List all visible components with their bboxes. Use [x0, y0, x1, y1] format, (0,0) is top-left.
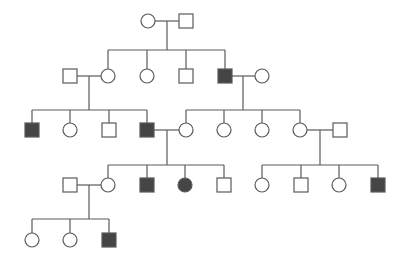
male-square-icon	[217, 178, 231, 192]
affected-male-square-icon	[25, 123, 39, 137]
affected-male-square-icon	[102, 233, 116, 247]
male-square-icon	[102, 123, 116, 137]
female-circle-icon	[255, 69, 269, 83]
affected-female-circle-icon	[178, 178, 192, 192]
female-circle-icon	[255, 178, 269, 192]
male-square-icon	[179, 69, 193, 83]
affected-male-square-icon	[218, 69, 232, 83]
female-circle-icon	[217, 123, 231, 137]
female-circle-icon	[293, 123, 307, 137]
female-circle-icon	[255, 123, 269, 137]
affected-male-square-icon	[140, 178, 154, 192]
female-circle-icon	[25, 233, 39, 247]
affected-male-square-icon	[371, 178, 385, 192]
male-square-icon	[333, 123, 347, 137]
pedigree-diagram	[0, 0, 407, 259]
male-square-icon	[294, 178, 308, 192]
female-circle-icon	[141, 14, 155, 28]
female-circle-icon	[332, 178, 346, 192]
relationship-lines	[32, 21, 378, 233]
female-circle-icon	[63, 233, 77, 247]
male-square-icon	[63, 178, 77, 192]
female-circle-icon	[179, 123, 193, 137]
female-circle-icon	[101, 69, 115, 83]
affected-male-square-icon	[140, 123, 154, 137]
female-circle-icon	[101, 178, 115, 192]
female-circle-icon	[140, 69, 154, 83]
male-square-icon	[179, 14, 193, 28]
female-circle-icon	[63, 123, 77, 137]
male-square-icon	[63, 69, 77, 83]
pedigree-chart	[0, 0, 407, 259]
